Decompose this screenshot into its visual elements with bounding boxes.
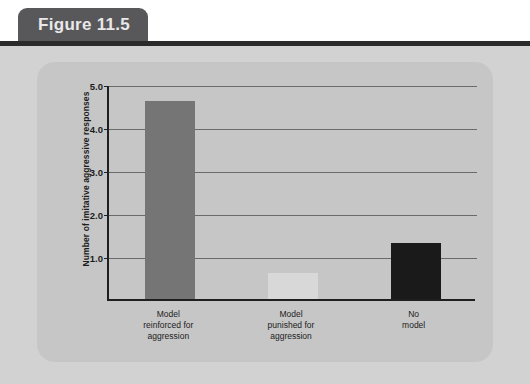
y-axis-tick-mark <box>104 215 109 216</box>
figure-number-tab: Figure 11.5 <box>18 8 148 41</box>
gridline <box>109 86 477 87</box>
x-axis-category-label: Model reinforced for aggression <box>113 309 223 342</box>
bar-chart: Number of imitative aggressive responses… <box>37 62 493 362</box>
bar <box>391 243 441 299</box>
figure-number-label: Figure 11.5 <box>38 16 130 33</box>
y-axis-tick-mark <box>104 172 109 173</box>
y-axis-tick-label: 2.0 <box>90 210 103 221</box>
y-axis-tick-label: 1.0 <box>90 253 103 264</box>
x-axis-category-label: No model <box>359 309 469 331</box>
y-axis-tick-label: 5.0 <box>90 81 103 92</box>
figure-container: Figure 11.5 Number of imitative aggressi… <box>0 0 530 384</box>
bar <box>145 101 195 299</box>
chart-panel: Number of imitative aggressive responses… <box>37 62 493 362</box>
figure-body: Number of imitative aggressive responses… <box>0 46 530 384</box>
x-axis-category-label: Model punished for aggression <box>236 309 346 342</box>
figure-header: Figure 11.5 <box>0 0 530 48</box>
bar <box>268 273 318 299</box>
y-axis-tick-mark <box>104 258 109 259</box>
y-axis-tick-label: 4.0 <box>90 124 103 135</box>
y-axis-tick-mark <box>104 129 109 130</box>
y-axis-tick-label: 3.0 <box>90 167 103 178</box>
y-axis-tick-mark <box>104 86 109 87</box>
plot-area: 1.02.03.04.05.0 <box>107 86 475 301</box>
y-axis-title: Number of imitative aggressive responses <box>81 84 91 274</box>
